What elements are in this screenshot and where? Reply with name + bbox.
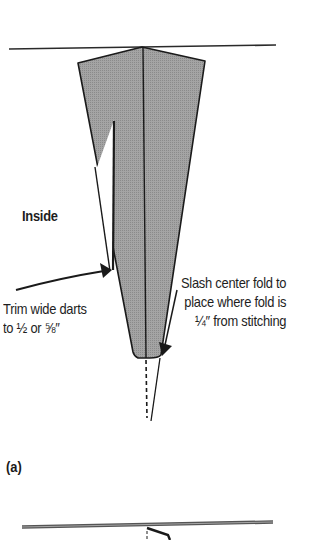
trim-annotation-line-2: to ½ or ⅝″ — [3, 318, 87, 337]
inner-stitch-line — [113, 121, 114, 270]
bottom-dart-start — [147, 528, 170, 540]
inside-label: Inside — [22, 206, 58, 225]
slash-fold-annotation: Slash center fold to place where fold is… — [181, 273, 286, 330]
slash-annotation-line-1: Slash center fold to — [181, 273, 286, 292]
slash-annotation-line-3: ¼″ from stitching — [181, 311, 286, 330]
trim-darts-annotation: Trim wide darts to ½ or ⅝″ — [3, 299, 87, 337]
slash-annotation-line-2: place where fold is — [181, 292, 286, 311]
stitching-line-extension — [151, 358, 160, 421]
figure-part-label: (a) — [6, 458, 22, 475]
dart-trimming-diagram — [0, 0, 319, 540]
fold-dashed-extension — [146, 360, 147, 418]
trim-arrow-shaft — [16, 271, 104, 290]
trim-annotation-line-1: Trim wide darts — [3, 299, 87, 318]
